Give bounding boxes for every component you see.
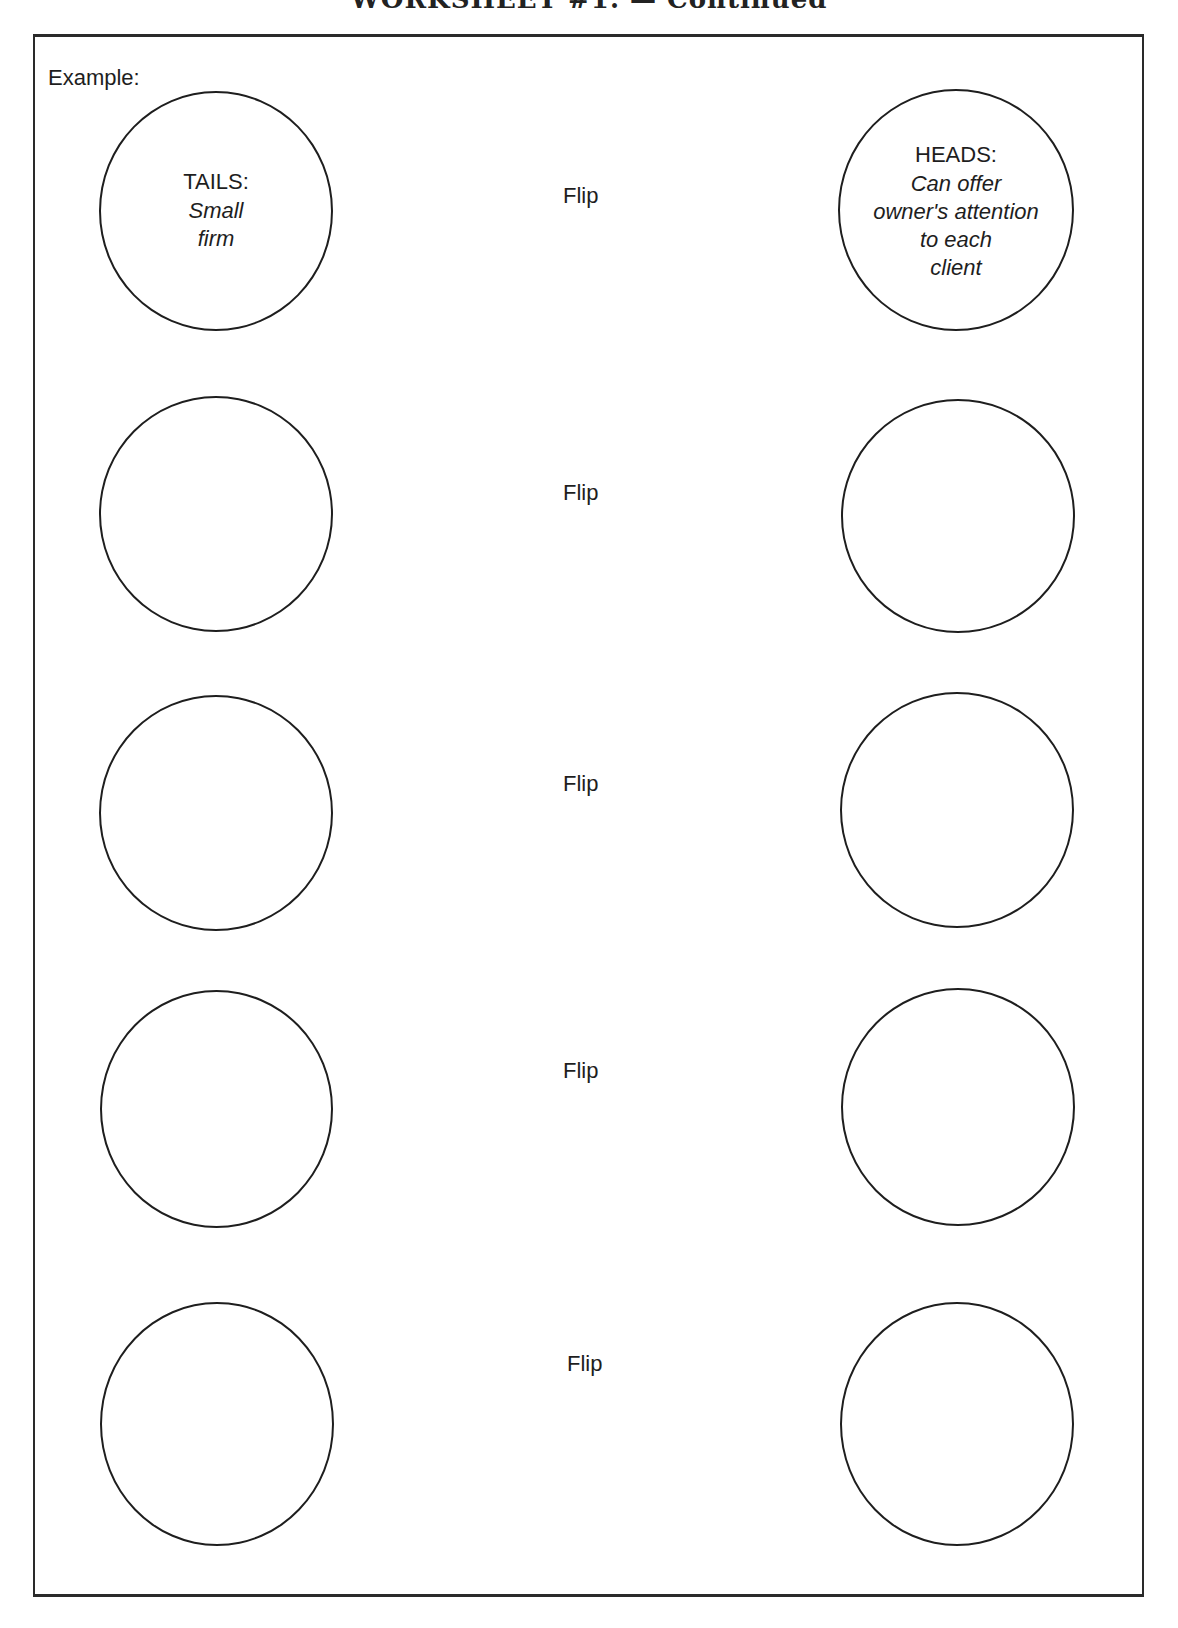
heads-coin-blank[interactable]	[841, 988, 1075, 1226]
flip-label: Flip	[563, 480, 598, 506]
flip-label: Flip	[563, 183, 598, 209]
tails-description-line: Small	[188, 197, 243, 225]
heads-coin-example: HEADS: Can offer owner's attention to ea…	[838, 89, 1074, 331]
flip-label: Flip	[567, 1351, 602, 1377]
heads-description-line: owner's attention	[873, 198, 1039, 226]
flip-label: Flip	[563, 1058, 598, 1084]
heads-description-line: client	[873, 254, 1039, 282]
tails-coin-blank[interactable]	[100, 1302, 334, 1546]
heads-side-label: HEADS:	[915, 142, 997, 168]
tails-description-line: firm	[188, 225, 243, 253]
tails-coin-blank[interactable]	[99, 695, 333, 931]
heads-coin-blank[interactable]	[840, 692, 1074, 928]
heads-coin-blank[interactable]	[840, 1302, 1074, 1546]
tails-description: Small firm	[188, 197, 243, 253]
flip-label: Flip	[563, 771, 598, 797]
tails-coin-blank[interactable]	[100, 990, 333, 1228]
tails-coin-blank[interactable]	[99, 396, 333, 632]
heads-description-line: to each	[873, 226, 1039, 254]
tails-side-label: TAILS:	[183, 169, 249, 195]
example-label: Example:	[48, 65, 140, 91]
tails-coin-example: TAILS: Small firm	[99, 91, 333, 331]
worksheet-title: WORKSHEET #1. — Continued	[0, 0, 1178, 14]
heads-description-line: Can offer	[873, 170, 1039, 198]
heads-coin-blank[interactable]	[841, 399, 1075, 633]
heads-description: Can offer owner's attention to each clie…	[873, 170, 1039, 282]
